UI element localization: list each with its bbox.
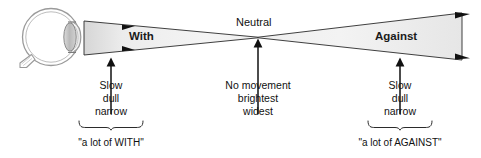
against-brace-label: "a lot of AGAINST" <box>325 137 475 148</box>
with-wedge <box>84 21 258 55</box>
against-top-arrowhead-icon <box>455 12 470 19</box>
with-wedge-label: With <box>129 31 154 43</box>
with-wedge-body <box>84 21 258 55</box>
against-callout-line-2: dull <box>350 92 450 105</box>
with-brace-label: "a lot of WITH" <box>41 137 181 148</box>
against-wedge <box>258 12 470 60</box>
eye-diagram <box>20 9 81 68</box>
neutral-callout-text: No movement brightest widest <box>198 79 318 119</box>
retinoscopy-reflex-diagram: With Neutral Against Slow dull narrow No… <box>0 0 481 158</box>
neutral-callout-arrowhead-icon <box>254 39 263 48</box>
neutral-label: Neutral <box>236 17 271 28</box>
against-wedge-body <box>258 13 462 60</box>
with-brace <box>79 121 143 130</box>
bottom-braces <box>79 121 432 130</box>
with-callout-text: Slow dull narrow <box>61 79 161 119</box>
against-callout-arrowhead-icon <box>396 58 405 67</box>
against-brace <box>368 121 432 130</box>
against-callout-line-1: Slow <box>350 79 450 92</box>
neutral-callout-line-2: brightest <box>198 92 318 105</box>
against-callout-text: Slow dull narrow <box>350 79 450 119</box>
against-wedge-label: Against <box>375 31 417 43</box>
neutral-callout-line-1: No movement <box>198 79 318 92</box>
with-callout-line-3: narrow <box>61 105 161 118</box>
optic-nerve <box>20 55 35 68</box>
with-callout-line-1: Slow <box>61 79 161 92</box>
neutral-callout-line-3: widest <box>198 105 318 118</box>
lens <box>64 23 76 51</box>
against-bottom-arrowhead-icon <box>455 54 470 60</box>
with-callout-arrowhead-icon <box>107 58 116 67</box>
with-callout-line-2: dull <box>61 92 161 105</box>
against-callout-line-3: narrow <box>350 105 450 118</box>
